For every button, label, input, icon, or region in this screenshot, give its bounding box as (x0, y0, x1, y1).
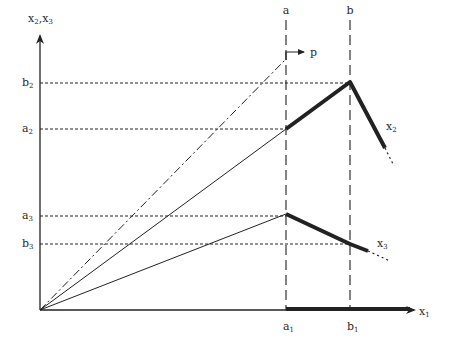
x3-thick-line (286, 214, 368, 251)
label-x3-curve: x3 (377, 237, 388, 251)
label-x1-axis: x1 (419, 305, 430, 319)
diagram-canvas: b2a2a3b3aa1bb1px2x3x1x2,x3 (0, 0, 450, 347)
x2-thin-line (40, 129, 286, 310)
p-ray (40, 60, 285, 310)
guide-lines (40, 20, 350, 310)
label-b1: b1 (347, 320, 359, 334)
label-p: p (310, 46, 317, 59)
label-a-top: a (283, 4, 290, 17)
label-y-axis: x2,x3 (28, 12, 53, 26)
label-x2-curve: x2 (386, 120, 397, 134)
label-b-top: b (346, 4, 353, 17)
x2-thick-line (286, 82, 385, 148)
x3-dotted-extension (368, 251, 390, 261)
labels: b2a2a3b3aa1bb1px2x3x1x2,x3 (22, 4, 430, 334)
curves (40, 52, 394, 310)
x3-thin-line (40, 214, 286, 310)
p-arrow (286, 52, 304, 60)
label-b3: b3 (22, 237, 34, 251)
label-a2: a2 (22, 122, 33, 136)
label-a3: a3 (22, 209, 33, 223)
label-b2: b2 (22, 76, 34, 90)
label-a1: a1 (283, 320, 294, 334)
x2-dotted-extension (385, 148, 394, 166)
